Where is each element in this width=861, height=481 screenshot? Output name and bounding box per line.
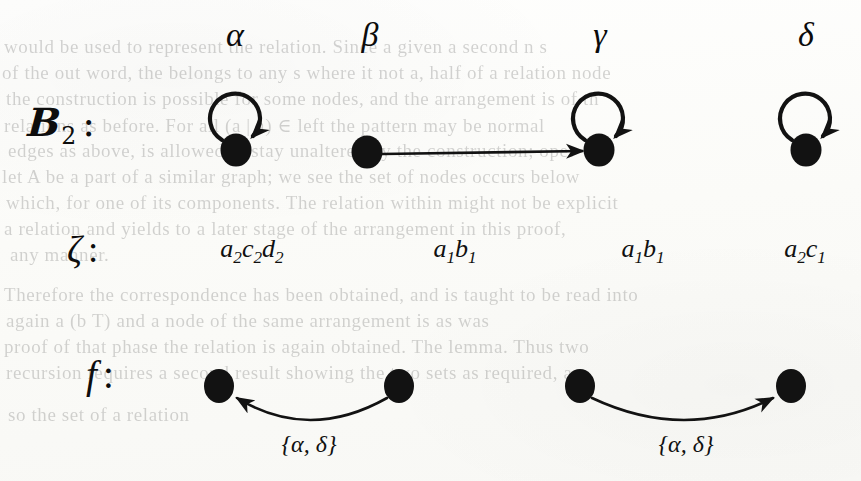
zeta-part-subscript: 1	[656, 248, 665, 267]
column-header-delta: δ	[776, 18, 836, 52]
node-n-gamma	[584, 134, 615, 167]
zeta-entry-zeta-alpha: a2c2d2	[220, 236, 283, 266]
row-label-f-colon: :	[97, 353, 114, 396]
zeta-part-base: a	[220, 234, 233, 263]
edge-edge-beta-gamma	[382, 151, 583, 154]
graph-figure-svg	[0, 0, 861, 481]
self-loop-loop-alpha	[210, 94, 260, 140]
row-label-b2-subscript: 2	[61, 122, 76, 150]
row-label-zeta: ζ:	[67, 231, 98, 268]
zeta-part-base: b	[455, 234, 468, 263]
zeta-part-subscript: 1	[634, 248, 643, 267]
row-label-b2-colon: :	[76, 101, 95, 145]
zeta-part-subscript: 1	[817, 248, 826, 267]
node-f-n3	[565, 369, 595, 403]
edge-f-edge-left	[237, 398, 387, 420]
f-row-graph	[204, 369, 806, 420]
self-loop-loop-delta	[780, 94, 830, 140]
zeta-part-base: a	[784, 234, 797, 263]
row-label-zeta-colon: :	[82, 229, 98, 270]
node-f-n4	[776, 369, 806, 403]
zeta-part-base: a	[433, 234, 446, 263]
zeta-part-subscript: 1	[468, 248, 477, 267]
node-n-beta	[352, 136, 383, 169]
b2-row-graph	[210, 94, 830, 169]
node-f-n2	[384, 369, 414, 403]
column-header-gamma: γ	[570, 18, 630, 52]
row-label-zeta-letter: ζ	[67, 229, 82, 270]
zeta-part-subscript: 2	[253, 248, 262, 267]
row-label-b2: B2:	[28, 104, 95, 148]
edge-f-edge-right	[592, 398, 773, 420]
row-label-b2-letter: B	[27, 104, 62, 143]
zeta-entry-zeta-gamma: a1b1	[621, 236, 664, 266]
column-header-alpha: α	[205, 18, 265, 52]
row-label-f-letter: f	[86, 353, 97, 396]
zeta-entry-zeta-delta: a2c1	[784, 236, 826, 266]
edge-label-f-edge-left: {α, δ}	[282, 432, 337, 456]
zeta-part-subscript: 1	[446, 248, 455, 267]
self-loop-loop-gamma	[573, 94, 623, 140]
zeta-part-base: b	[643, 234, 656, 263]
zeta-part-base: a	[621, 234, 634, 263]
zeta-part-base: d	[262, 234, 275, 263]
figure-page: would be used to represent the relation.…	[0, 0, 861, 481]
node-n-delta	[791, 134, 822, 167]
zeta-part-subscript: 2	[797, 248, 806, 267]
node-n-alpha	[221, 134, 252, 167]
node-f-n1	[204, 369, 234, 403]
zeta-part-base: c	[242, 234, 254, 263]
zeta-entry-zeta-beta: a1b1	[433, 236, 476, 266]
zeta-part-subscript: 2	[233, 248, 242, 267]
edge-label-f-edge-right: {α, δ}	[659, 432, 714, 456]
column-header-beta: β	[340, 18, 400, 52]
zeta-part-base: c	[806, 234, 818, 263]
row-label-f: f:	[86, 355, 114, 394]
zeta-part-subscript: 2	[275, 248, 284, 267]
